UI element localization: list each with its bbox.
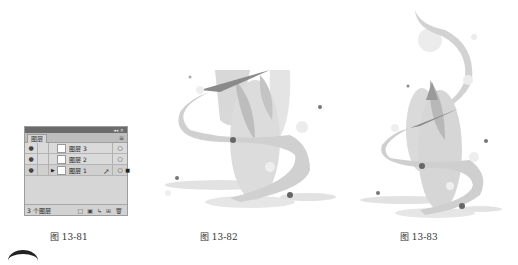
locate-object-icon[interactable]: ↳ <box>97 207 102 214</box>
panel-footer: 3 个图层 □ ▣ ↳ ⊞ 🗑 <box>25 204 127 215</box>
panel-tabbar: 图层 ≡ <box>25 133 127 143</box>
lock-toggle[interactable] <box>38 143 49 153</box>
layers-list: ● 图层 3 ○ ● 图层 2 ○ ● ▶ 图层 1 ○ ■ ➚ <box>25 143 127 176</box>
expand-toggle[interactable]: ▶ <box>49 165 57 175</box>
artwork-fig-13-83 <box>350 0 518 230</box>
new-layer-icon[interactable]: ⊞ <box>106 207 111 214</box>
target-icon[interactable]: ○ <box>112 143 127 153</box>
eye-icon[interactable]: ● <box>25 143 38 153</box>
lock-toggle[interactable] <box>38 154 49 164</box>
layers-panel: ◂◂ ✕ 图层 ≡ ● 图层 3 ○ ● 图层 2 ○ ● ▶ 图层 1 ○ <box>24 126 128 216</box>
expand-toggle[interactable] <box>49 154 57 164</box>
layer-thumbnail <box>57 144 66 153</box>
caption-fig-13-82: 图 13-82 <box>200 230 238 243</box>
page-decoration <box>8 250 38 265</box>
eye-icon[interactable]: ● <box>25 165 38 175</box>
layer-row[interactable]: ● 图层 2 ○ <box>25 154 127 165</box>
expand-toggle[interactable] <box>49 143 57 153</box>
artwork-fig-13-82 <box>160 30 340 230</box>
caption-fig-13-83: 图 13-83 <box>400 230 438 243</box>
eye-icon[interactable]: ● <box>25 154 38 164</box>
layer-name[interactable]: 图层 3 <box>69 144 112 153</box>
layer-thumbnail <box>57 166 66 175</box>
new-sublayer-icon[interactable]: ▣ <box>87 207 93 214</box>
layer-row[interactable]: ● 图层 3 ○ <box>25 143 127 154</box>
caption-fig-13-81: 图 13-81 <box>50 230 88 243</box>
panel-menu-icon[interactable]: ≡ <box>119 134 124 141</box>
mouse-cursor-icon: ➚ <box>103 167 110 176</box>
lock-toggle[interactable] <box>38 165 49 175</box>
target-icon[interactable]: ○ <box>112 154 127 164</box>
make-clip-mask-icon[interactable]: □ <box>78 207 84 214</box>
tab-layers[interactable]: 图层 <box>27 134 47 143</box>
selection-indicator-icon: ■ <box>125 167 130 173</box>
layer-count: 3 个图层 <box>27 206 78 215</box>
layer-row-selected[interactable]: ● ▶ 图层 1 ○ ■ ➚ <box>25 165 127 176</box>
trash-icon[interactable]: 🗑 <box>115 207 123 214</box>
layer-name[interactable]: 图层 2 <box>69 155 112 164</box>
layer-thumbnail <box>57 155 66 164</box>
